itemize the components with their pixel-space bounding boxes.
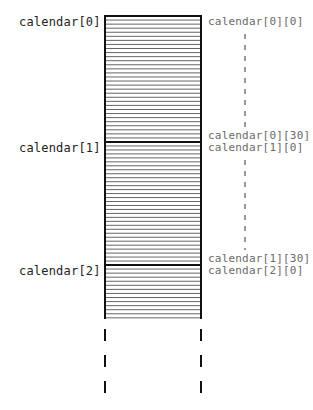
row-label-calendar-1: calendar[1]	[19, 141, 101, 155]
calendar-memory-diagram: calendar[0] calendar[1] calendar[2] cale…	[0, 0, 313, 410]
row-label-calendar-0: calendar[0]	[19, 15, 101, 29]
memory-block-graphic	[0, 0, 313, 410]
element-label-calendar-2-0: calendar[2][0]	[208, 264, 304, 277]
element-label-calendar-1-0: calendar[1][0]	[208, 141, 304, 154]
row-label-calendar-2: calendar[2]	[19, 264, 101, 278]
element-label-calendar-0-0: calendar[0][0]	[208, 15, 304, 28]
